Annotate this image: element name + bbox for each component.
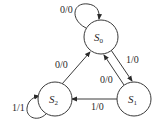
state-s1: S1	[117, 82, 151, 116]
state-s0: S0	[84, 20, 118, 54]
label-s0-s1: 1/0	[126, 54, 139, 65]
label-s1-s2: 1/0	[91, 101, 104, 112]
label-s2-s2: 1/1	[12, 102, 25, 113]
state-diagram: 0/0 1/0 0/0 1/0 0/0 1/1 S0 S1 S2	[0, 0, 160, 124]
label-s1-s0: 0/0	[100, 74, 113, 85]
label-s2-s0: 0/0	[55, 59, 68, 70]
label-s0-s0: 0/0	[60, 4, 73, 15]
state-s2: S2	[38, 82, 72, 116]
